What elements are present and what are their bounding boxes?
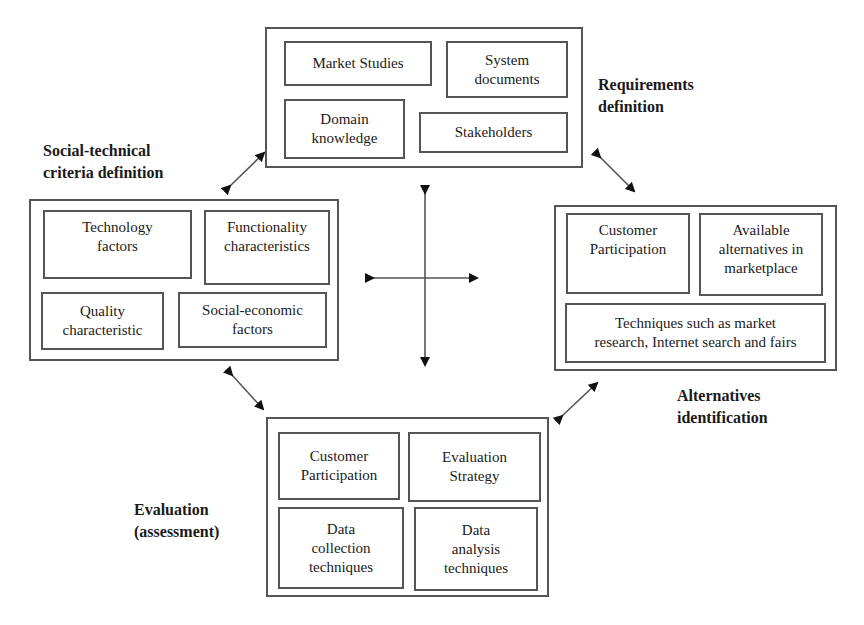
bidirectional-arrow-icon <box>562 383 597 416</box>
bidirectional-arrow-icon <box>230 153 264 186</box>
connection-arrows <box>0 0 864 625</box>
bidirectional-arrow-icon <box>232 375 263 409</box>
bidirectional-arrow-icon <box>600 157 634 191</box>
